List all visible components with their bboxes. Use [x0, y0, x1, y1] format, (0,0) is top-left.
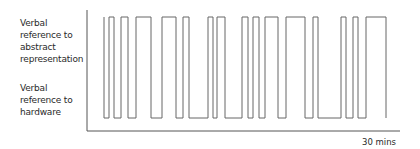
- signal-trace: [104, 17, 386, 118]
- step-chart: [0, 0, 420, 149]
